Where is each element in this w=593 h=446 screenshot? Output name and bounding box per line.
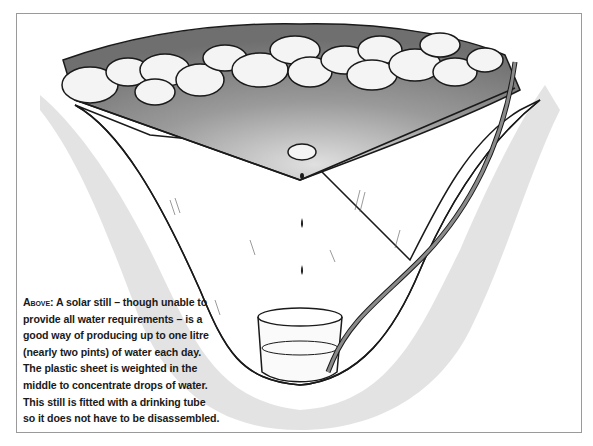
- caption-line: (nearly two pints) of water each day.: [23, 346, 201, 358]
- caption-line: A solar still – though unable to: [56, 296, 207, 308]
- caption-line: so it does not have to be disassembled.: [23, 412, 219, 424]
- caption-line: provide all water requirements – is a: [23, 313, 202, 325]
- caption-line: This still is fitted with a drinking tub…: [23, 396, 205, 408]
- weight-stone: [288, 144, 316, 160]
- caption-line: good way of producing up to one litre: [23, 329, 209, 341]
- caption-lead: Above:: [23, 296, 53, 308]
- caption-line: The plastic sheet is weighted in the: [23, 362, 197, 374]
- figure-caption: Above: A solar still – though unable to …: [23, 294, 273, 427]
- caption-line: middle to concentrate drops of water.: [23, 379, 208, 391]
